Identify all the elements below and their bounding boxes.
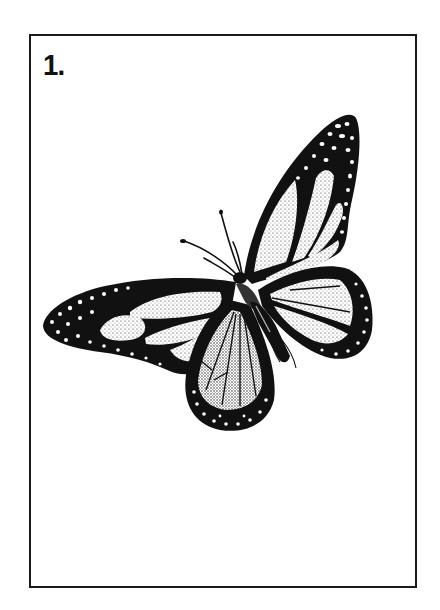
antennae — [184, 213, 242, 278]
right-forewing — [244, 115, 359, 284]
butterfly-icon — [0, 0, 440, 610]
